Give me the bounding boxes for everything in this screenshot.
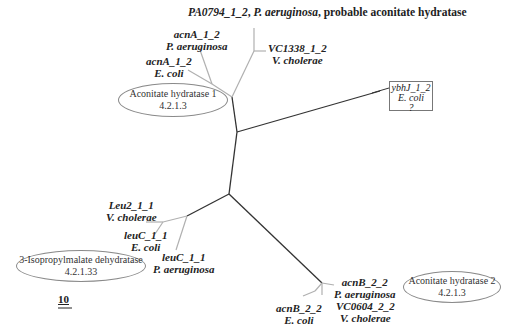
- leaf-gene: leuC_1_1: [124, 229, 167, 241]
- scale-bar-label: 10: [58, 293, 69, 305]
- leaf-organism: V. cholerae: [268, 54, 327, 66]
- leaf-gene: leuC_1_1: [153, 251, 215, 263]
- leaf-ybhJ: ybhJ_1_2 E. coli ?: [389, 81, 433, 111]
- leaf-organism: P. aeruginosa: [166, 40, 228, 52]
- leaf-pa0794: PA0794_1_2, P. aeruginosa, probable acon…: [188, 6, 467, 18]
- leaf-note: ?: [390, 103, 432, 113]
- leaf-gene: Leu2_1_1: [106, 199, 157, 211]
- group-name: 3-Isopropylmalate dehydratase: [17, 254, 145, 266]
- leaf-organism: E. coli: [146, 67, 192, 79]
- group-name: Aconitate hydratase 2: [404, 275, 500, 287]
- leaf-note: probable aconitate hydratase: [324, 6, 467, 18]
- leaf-leuC-pa: leuC_1_1 P. aeruginosa: [153, 251, 215, 275]
- leaf-vc1338: VC1338_1_2 V. cholerae: [268, 42, 327, 66]
- internal-branches: [187, 91, 380, 283]
- leaf-acnB-pa: acnB_2_2 P. aeruginosa: [334, 276, 396, 300]
- group-ec: 4.2.1.3: [404, 287, 500, 299]
- group-name: Aconitate hydratase 1: [119, 88, 227, 100]
- leaf-gene: acnA_1_2: [166, 28, 228, 40]
- leaf-leu2-vc: Leu2_1_1 V. cholerae: [106, 199, 157, 223]
- group-ec: 4.2.1.33: [17, 266, 145, 278]
- leaf-gene: VC0604_2_2: [336, 300, 395, 312]
- leaf-organism: P. aeruginosa: [334, 288, 396, 300]
- group-aconitate-hydratase-2: Aconitate hydratase 2 4.2.1.3: [403, 271, 501, 303]
- leaf-gene: PA0794_1_2: [188, 6, 248, 18]
- leaf-gene: acnA_1_2: [146, 55, 192, 67]
- ybhJ-connector: [372, 88, 389, 93]
- leaf-leuC-ec: leuC_1_1 E. coli: [124, 229, 167, 253]
- leaf-gene: acnB_2_2: [334, 276, 396, 288]
- leaf-acnB-ec: acnB_2_2 E. coli: [276, 302, 322, 326]
- leaf-organism: V. cholerae: [106, 211, 157, 223]
- leaf-organism: P. aeruginosa: [153, 263, 215, 275]
- leaf-organism: V. cholerae: [336, 312, 395, 324]
- leaf-acnA-pa: acnA_1_2 P. aeruginosa: [166, 28, 228, 52]
- leaf-gene: acnB_2_2: [276, 302, 322, 314]
- leaf-vc0604: VC0604_2_2 V. cholerae: [336, 300, 395, 324]
- group-isopropylmalate-dehydratase: 3-Isopropylmalate dehydratase 4.2.1.33: [16, 250, 146, 282]
- group-ec: 4.2.1.3: [119, 100, 227, 112]
- leaf-organism: E. coli: [276, 314, 322, 326]
- leaf-acnA-ec: acnA_1_2 E. coli: [146, 55, 192, 79]
- group-aconitate-hydratase-1: Aconitate hydratase 1 4.2.1.3: [118, 83, 228, 117]
- leaf-organism: P. aeruginosa: [254, 6, 318, 18]
- leaf-gene: VC1338_1_2: [268, 42, 327, 54]
